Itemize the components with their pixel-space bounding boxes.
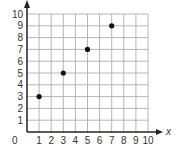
y-tick-label: 7	[17, 44, 23, 55]
y-tick-label: 5	[17, 68, 23, 79]
x-tick-label: 6	[97, 135, 103, 146]
y-tick-label: 6	[17, 56, 23, 67]
y-tick-label: 4	[17, 79, 23, 90]
y-tick-label: 2	[17, 103, 23, 114]
y-tick-label: 8	[17, 32, 23, 43]
x-tick-label: 8	[121, 135, 127, 146]
y-tick-label: 10	[12, 9, 24, 20]
origin-label: 0	[12, 135, 18, 146]
x-tick-label: 1	[36, 135, 42, 146]
x-tick-label: 4	[73, 135, 79, 146]
x-axis-arrow-icon	[156, 129, 163, 135]
data-point	[61, 70, 66, 75]
y-axis-arrow-icon	[24, 0, 30, 8]
scatter-chart: 12345678910 12345678910 0 x	[0, 0, 176, 148]
data-point	[109, 23, 114, 28]
y-tick-label: 3	[17, 91, 23, 102]
y-tick-label: 1	[17, 115, 23, 126]
x-tick-label: 3	[61, 135, 67, 146]
axes	[24, 0, 163, 135]
x-tick-label: 7	[109, 135, 115, 146]
x-axis-label: x	[165, 126, 172, 137]
x-tick-label: 10	[142, 135, 154, 146]
y-tick-labels: 12345678910	[12, 9, 24, 126]
grid-lines	[27, 14, 148, 132]
y-tick-label: 9	[17, 20, 23, 31]
x-tick-label: 2	[48, 135, 54, 146]
x-tick-labels: 12345678910	[36, 135, 154, 146]
data-point	[85, 47, 90, 52]
x-tick-label: 9	[133, 135, 139, 146]
data-point	[37, 94, 42, 99]
x-tick-label: 5	[85, 135, 91, 146]
